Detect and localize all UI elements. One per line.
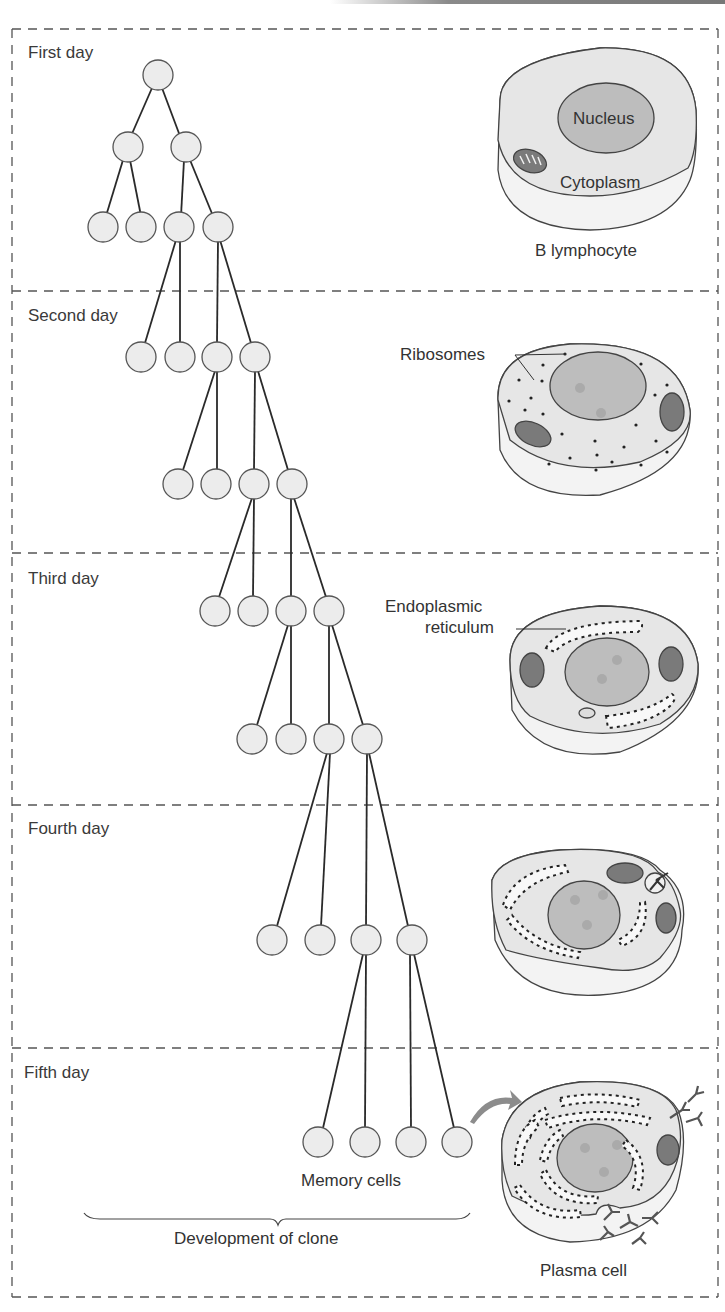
mitochondrion-icon <box>607 863 643 883</box>
day2-cell <box>498 344 690 496</box>
development-of-clone-label: Development of clone <box>174 1230 338 1247</box>
cytoplasm-label: Cytoplasm <box>560 174 640 191</box>
day4-cell <box>492 849 684 995</box>
day-label-first: First day <box>28 44 93 61</box>
nucleus <box>548 881 620 949</box>
er-label-line1: Endoplasmic <box>385 598 482 615</box>
mitochondrion-icon <box>657 1135 679 1165</box>
day-label-second: Second day <box>28 307 118 324</box>
clone-brace <box>84 1213 470 1225</box>
plasma-cell-label: Plasma cell <box>540 1262 627 1279</box>
memory-cell <box>442 1127 472 1157</box>
ribosomes-label: Ribosomes <box>400 346 485 363</box>
mitochondrion-icon <box>660 393 684 431</box>
memory-cells-label: Memory cells <box>301 1172 401 1189</box>
day-label-fifth: Fifth day <box>24 1064 89 1081</box>
memory-cell <box>396 1127 426 1157</box>
plasma-cell <box>502 1082 704 1244</box>
mitochondrion-icon <box>659 647 683 681</box>
er-label-line2: reticulum <box>425 619 494 636</box>
nucleus <box>557 1124 633 1192</box>
b-lymphocyte-label: B lymphocyte <box>535 242 637 259</box>
mitochondrion-icon <box>656 903 676 933</box>
nucleus-label: Nucleus <box>573 110 634 127</box>
mitochondrion-icon <box>520 653 544 687</box>
day-label-third: Third day <box>28 570 99 587</box>
memory-cell <box>303 1127 333 1157</box>
day3-cell <box>510 606 698 754</box>
b-lymphocyte-cell <box>498 48 696 230</box>
node-root <box>143 60 173 90</box>
day-label-fourth: Fourth day <box>28 820 109 837</box>
nucleus <box>565 638 649 706</box>
clone-diagram <box>0 0 725 1312</box>
memory-cell <box>350 1127 380 1157</box>
